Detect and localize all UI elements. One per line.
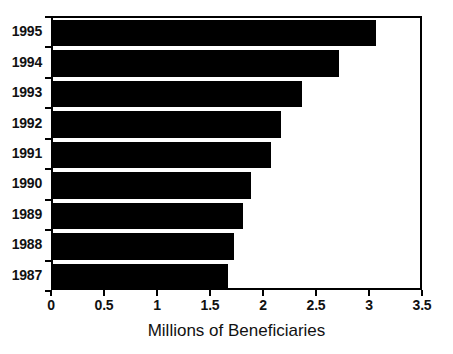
x-tick-label-3: 3 <box>349 297 389 313</box>
y-tick-mark <box>45 46 51 48</box>
y-tick-label-1989: 1989 <box>0 207 42 221</box>
y-tick-label-1993: 1993 <box>0 85 42 99</box>
y-tick-mark <box>45 138 51 140</box>
bars-layer <box>53 18 420 288</box>
x-tick-label-2.5: 2.5 <box>296 297 336 313</box>
y-tick-mark <box>45 16 51 18</box>
x-tick-label-3.5: 3.5 <box>402 297 442 313</box>
y-tick-mark <box>45 229 51 231</box>
x-tick-label-2: 2 <box>243 297 283 313</box>
y-tick-label-1994: 1994 <box>0 55 42 69</box>
y-tick-label-1995: 1995 <box>0 24 42 38</box>
bar-1989 <box>53 203 243 229</box>
y-tick-label-1988: 1988 <box>0 237 42 251</box>
x-tick-label-0: 0 <box>31 297 71 313</box>
y-tick-mark <box>45 77 51 79</box>
x-axis-values: 00.511.522.533.5 <box>0 290 453 318</box>
y-axis-years: 199519941993199219911990198919881987 <box>0 16 51 290</box>
y-tick-label-1991: 1991 <box>0 146 42 160</box>
x-tick-mark <box>209 290 211 296</box>
bar-1993 <box>53 81 302 107</box>
x-tick-mark <box>50 290 52 296</box>
bar-1987 <box>53 264 228 290</box>
bar-1994 <box>53 50 339 76</box>
y-tick-label-1990: 1990 <box>0 176 42 190</box>
y-tick-mark <box>45 168 51 170</box>
x-tick-label-0.5: 0.5 <box>84 297 124 313</box>
x-tick-label-1.5: 1.5 <box>190 297 230 313</box>
bar-1988 <box>53 233 234 259</box>
x-tick-mark <box>368 290 370 296</box>
bar-1991 <box>53 142 271 168</box>
bar-1992 <box>53 111 281 137</box>
y-tick-mark <box>45 107 51 109</box>
y-tick-label-1987: 1987 <box>0 268 42 282</box>
x-tick-label-1: 1 <box>137 297 177 313</box>
x-tick-mark <box>103 290 105 296</box>
y-tick-mark <box>45 199 51 201</box>
x-tick-mark <box>262 290 264 296</box>
y-tick-mark <box>45 260 51 262</box>
bar-chart: 199519941993199219911990198919881987 00.… <box>0 0 453 354</box>
bar-1990 <box>53 172 251 198</box>
x-axis-title: Millions of Beneficiaries <box>51 321 422 341</box>
plot-area <box>51 16 422 290</box>
bar-1995 <box>53 20 376 46</box>
x-tick-mark <box>315 290 317 296</box>
y-tick-label-1992: 1992 <box>0 116 42 130</box>
x-tick-mark <box>156 290 158 296</box>
x-tick-mark <box>421 290 423 296</box>
